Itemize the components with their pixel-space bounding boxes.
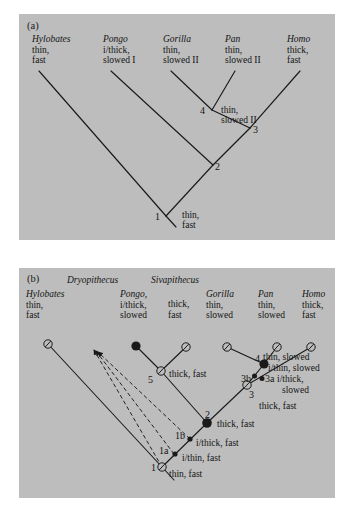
panel-b-tip-sivapithecus-state2: fast: [168, 310, 189, 321]
panel-a-tip-gorilla-state2: slowed II: [163, 55, 199, 66]
panel-a-node-1-label: 1: [155, 211, 160, 222]
panel-b-node-2-label: 2: [205, 409, 210, 420]
tip-marker-homo: [307, 343, 315, 351]
panel-b-tip-pan: Pan thin, slowed: [258, 289, 285, 321]
panel-b-tip-pongo-taxon: Pongo,: [120, 289, 147, 300]
panel-b-state-node3b: i/thin, slowed: [268, 363, 320, 374]
panel-a: (a) Hylobates thin, fast Pongo i/thick, …: [19, 14, 335, 240]
panel-a-state-node1-line2: fast: [182, 220, 196, 231]
panel-a-tip-homo-state2: fast: [287, 55, 310, 66]
panel-b-tip-pongo: Pongo, i/thick, slowed: [120, 289, 147, 321]
panel-b-state-node4: thin, slowed: [263, 352, 309, 363]
panel-a-state-node4-line2: slowed II: [221, 115, 257, 126]
panel-b-header-dryopithecus: Dryopithecus: [67, 275, 118, 285]
panel-a-tip-gorilla-taxon: Gorilla: [163, 34, 199, 45]
panel-b-tip-hylobates-state1: thin,: [26, 300, 65, 311]
panel-b-tip-sivapithecus: thick, fast: [168, 299, 189, 320]
figure-phylogeny: (a) Hylobates thin, fast Pongo i/thick, …: [0, 0, 347, 512]
branch-b-dryopithecus: [136, 346, 161, 371]
panel-b-state-node5: thick, fast: [169, 369, 206, 380]
panel-a-node-2-label: 2: [215, 161, 220, 172]
panel-b-tip-sivapithecus-state1: thick,: [168, 299, 189, 310]
node-marker-3a: [260, 376, 265, 381]
tip-marker-hylobates: [44, 340, 52, 348]
panel-b-tip-homo-state2: fast: [302, 310, 325, 321]
panel-b-tip-hylobates: Hylobates thin, fast: [26, 289, 65, 321]
panel-b-state-node1: thin, fast: [169, 469, 202, 480]
panel-b-tip-gorilla-taxon: Gorilla: [206, 289, 234, 300]
panel-a-tip-pongo-state2: slowed I: [103, 55, 135, 66]
panel-b-tip-pan-state2: slowed: [258, 310, 285, 321]
branch-hylobates: [39, 71, 166, 216]
panel-a-tip-hylobates-state2: fast: [32, 55, 71, 66]
tip-marker-dryopithecus: [131, 341, 140, 350]
node-marker-1: [158, 463, 166, 471]
panel-a-tip-gorilla-state1: thin,: [163, 45, 199, 56]
branch-pongo: [111, 71, 213, 165]
panel-b-node-1b-label: 1b: [175, 430, 185, 441]
node-marker-1a: [172, 451, 177, 456]
panel-a-tip-hylobates: Hylobates thin, fast: [32, 34, 71, 66]
branch-homo: [250, 71, 300, 128]
panel-b-tip-gorilla-state1: thin,: [206, 300, 234, 311]
panel-b-tip-homo: Homo thick, fast: [302, 289, 325, 321]
branch-node2-node3: [213, 128, 250, 165]
panel-b-header-sivapithecus: Sivapithecus: [151, 275, 199, 285]
panel-a-tip-hylobates-taxon: Hylobates: [32, 34, 71, 45]
panel-a-letter: (a): [27, 20, 39, 31]
panel-a-tip-homo-state1: thick,: [287, 45, 310, 56]
panel-b-node-1a-label: 1a: [159, 445, 168, 456]
panel-a-node-3-label: 3: [253, 124, 258, 135]
branch-root-stem: [166, 216, 176, 227]
panel-b-state-node3a-line1: i/thick,: [277, 374, 304, 385]
panel-a-tip-pan: Pan thin, slowed II: [225, 34, 261, 66]
panel-b: (b) Dryopithecus Sivapithecus Hylobates …: [19, 268, 335, 498]
panel-a-tip-pongo-state1: i/thick,: [103, 45, 135, 56]
panel-a-tip-pan-taxon: Pan: [225, 34, 261, 45]
panel-b-node-5-label: 5: [148, 374, 153, 385]
panel-b-node-4-label: 4: [255, 353, 260, 364]
panel-b-node-3b-label: 3b: [241, 373, 251, 384]
panel-b-tip-pongo-state2: slowed: [120, 310, 147, 321]
panel-a-tip-pongo-taxon: Pongo: [103, 34, 135, 45]
dashed-arrow-from-node1b: [98, 352, 190, 439]
panel-b-tip-homo-taxon: Homo: [302, 289, 325, 300]
panel-a-tip-gorilla: Gorilla thin, slowed II: [163, 34, 199, 66]
panel-b-tip-gorilla: Gorilla thin, slowed: [206, 289, 234, 321]
branch-b-node2-node3: [207, 385, 247, 423]
panel-a-tip-pongo: Pongo i/thick, slowed I: [103, 34, 135, 66]
panel-b-state-node1b: i/thick, fast: [196, 438, 239, 449]
panel-b-letter: (b): [27, 273, 39, 284]
node-marker-3b: [252, 374, 257, 379]
panel-b-state-node1a: i/thin, fast: [182, 453, 221, 464]
panel-a-tip-homo: Homo thick, fast: [287, 34, 310, 66]
branch-gorilla: [171, 71, 212, 110]
panel-a-tip-pan-state1: thin,: [225, 45, 261, 56]
branch-b-sivapithecus: [161, 347, 186, 371]
panel-b-tip-gorilla-state2: slowed: [206, 310, 234, 321]
panel-a-state-node1-line1: thin,: [182, 210, 199, 221]
panel-b-tip-homo-state1: thick,: [302, 300, 325, 311]
panel-a-state-node4-line1: thin,: [221, 105, 238, 116]
tip-marker-sivapithecus: [182, 343, 190, 351]
panel-b-node-3a-label: 3a: [265, 373, 274, 384]
panel-a-tip-homo-taxon: Homo: [287, 34, 310, 45]
panel-b-tip-pan-state1: thin,: [258, 300, 285, 311]
panel-b-state-node3: thick, fast: [259, 401, 296, 412]
panel-b-state-node2: thick, fast: [217, 419, 254, 430]
panel-b-node-1-label: 1: [151, 462, 156, 473]
panel-b-tip-pongo-state1: i/thick,: [120, 300, 147, 311]
node-marker-5: [157, 367, 165, 375]
panel-a-node-4-label: 4: [200, 105, 205, 116]
branch-node1-node2: [166, 165, 213, 216]
panel-b-tip-hylobates-taxon: Hylobates: [26, 289, 65, 300]
panel-a-tip-pan-state2: slowed II: [225, 55, 261, 66]
panel-b-tip-pan-taxon: Pan: [258, 289, 285, 300]
tip-marker-gorilla: [223, 343, 231, 351]
node-marker-1b: [187, 436, 192, 441]
panel-b-state-node3a-line2: slowed: [282, 385, 309, 396]
tip-marker-pan: [273, 343, 281, 351]
panel-b-node-3-label: 3: [249, 389, 254, 400]
panel-a-tip-hylobates-state1: thin,: [32, 45, 71, 56]
panel-b-tip-hylobates-state2: fast: [26, 310, 65, 321]
